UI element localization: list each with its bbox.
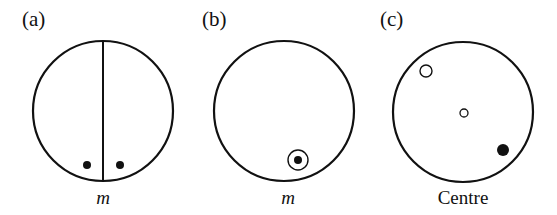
primitive-circle <box>214 41 354 181</box>
filled-pole <box>497 144 509 156</box>
panel-b-caption: m <box>281 187 295 208</box>
panel-c-caption: Centre <box>438 187 489 208</box>
open-pole <box>420 65 432 77</box>
panel-c-label: (c) <box>380 7 403 31</box>
primitive-circle <box>393 42 533 182</box>
filled-pole <box>116 161 124 169</box>
stereogram-figure: (a) m (b) m (c) Centre <box>0 0 557 215</box>
panel-b: (b) m <box>202 7 354 208</box>
filled-pole <box>294 156 302 164</box>
filled-pole <box>83 161 91 169</box>
panel-a: (a) m <box>22 7 173 208</box>
panel-c: (c) Centre <box>380 7 533 208</box>
centre-open-pole <box>460 109 468 117</box>
panel-b-label: (b) <box>202 7 227 31</box>
panel-a-caption: m <box>96 187 110 208</box>
panel-a-label: (a) <box>22 7 45 31</box>
